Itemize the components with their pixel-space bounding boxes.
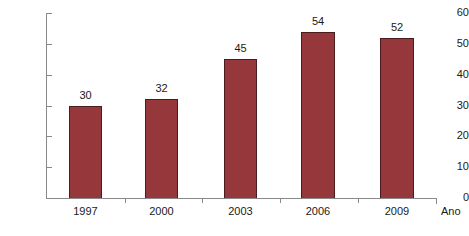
x-axis-category-label: 2000 [129,206,194,217]
x-axis-category-label: 1997 [53,206,118,217]
bar-value-label: 52 [368,22,426,33]
bar-value-label: 30 [57,90,114,101]
y-axis-tick-label: 30 [431,100,469,111]
x-axis-title: Ano [441,206,461,217]
y-axis-tick [46,44,52,45]
y-axis-tick [46,167,52,168]
y-axis-tick [46,198,52,199]
x-axis-category-label: 2009 [364,206,430,217]
bar [380,38,414,198]
y-axis-tick [46,13,52,14]
bar [69,106,102,199]
bar-value-label: 54 [289,16,347,27]
bar [301,32,335,199]
bar-value-label: 32 [133,83,190,94]
bar-chart: 0102030405060 3032455452 199720002003200… [0,0,469,236]
x-axis-category-label: 2006 [285,206,351,217]
y-axis-tick-label: 40 [431,69,469,80]
bar [145,99,178,198]
y-axis-tick [46,136,52,137]
x-axis-tick [358,198,359,203]
x-axis-tick [125,198,126,203]
x-axis-line [46,198,437,199]
x-axis-tick [436,198,437,203]
x-axis-tick [202,198,203,203]
y-axis-tick-label: 60 [431,7,469,18]
bar-value-label: 45 [212,43,269,54]
x-axis-tick [280,198,281,203]
y-axis-tick [46,106,52,107]
y-axis-tick-label: 20 [431,130,469,141]
y-axis-tick-label: 50 [431,38,469,49]
y-axis-tick [46,75,52,76]
y-axis-tick-label: 10 [431,161,469,172]
x-axis-category-label: 2003 [208,206,273,217]
bar [224,59,257,198]
